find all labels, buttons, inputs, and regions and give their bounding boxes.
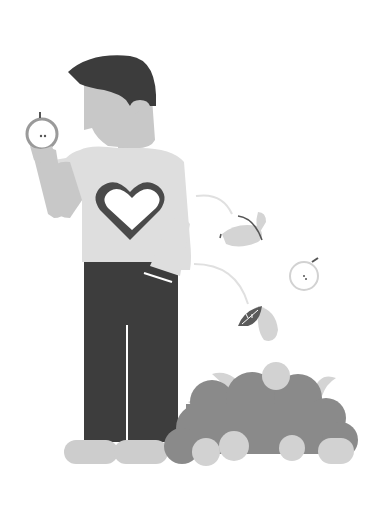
pants xyxy=(84,262,178,442)
apple-seed xyxy=(305,278,307,280)
man xyxy=(32,55,191,464)
motion-trail xyxy=(196,195,232,214)
apple-seed xyxy=(40,135,42,137)
apple-ground xyxy=(318,438,354,464)
apple-ground xyxy=(192,438,220,466)
shoe-left xyxy=(64,440,118,464)
shoe-right xyxy=(114,440,168,464)
falling-leaf xyxy=(220,212,266,247)
apple-body xyxy=(27,119,57,149)
apple-seed xyxy=(303,275,305,277)
leaf-stem xyxy=(220,234,221,238)
illustration xyxy=(0,0,382,518)
apple-ground xyxy=(279,435,305,461)
apple-stem xyxy=(312,258,318,262)
apple-seed xyxy=(44,135,46,137)
leaf-pile xyxy=(164,362,358,466)
apple-on-pile xyxy=(262,362,290,390)
apple-in-hand xyxy=(27,112,57,163)
falling-leaf-lower xyxy=(238,306,278,341)
apple-ground xyxy=(219,431,249,461)
motion-trail xyxy=(194,264,248,304)
falling-apple xyxy=(290,258,318,290)
